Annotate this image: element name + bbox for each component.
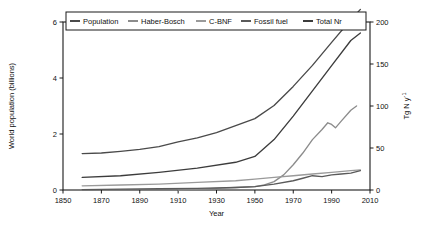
legend-label-haber-bosch: Haber-Bosch	[141, 17, 185, 26]
y-right-tick-label: 50	[376, 144, 384, 153]
legend-label-c-bnf: C-BNF	[209, 17, 232, 26]
x-tick-label: 2010	[362, 196, 379, 205]
legend-label-fossil-fuel: Fossil fuel	[254, 17, 288, 26]
legend-label-population: Population	[83, 17, 118, 26]
x-axis-ticks: 185018701890191019301950197019902010	[55, 190, 379, 205]
y-axis-left-label: World population (billions)	[7, 62, 16, 149]
y-right-tick-label: 100	[376, 102, 389, 111]
y-axis-left-ticks: 0246	[53, 18, 63, 195]
x-tick-label: 1870	[93, 196, 110, 205]
y-right-tick-label: 0	[376, 186, 380, 195]
y-axis-right-ticks: 050100150200	[370, 18, 389, 195]
population-nitrogen-line-chart: 185018701890191019301950197019902010 024…	[0, 0, 422, 242]
y-left-tick-label: 0	[53, 186, 57, 195]
y-right-tick-label: 150	[376, 60, 389, 69]
series-line-population	[82, 9, 360, 153]
y-left-tick-label: 2	[53, 130, 57, 139]
series-line-total-nr	[82, 33, 360, 177]
x-tick-label: 1990	[323, 196, 340, 205]
x-tick-label: 1950	[247, 196, 264, 205]
y-right-tick-label: 200	[376, 18, 389, 27]
x-tick-label: 1910	[170, 196, 187, 205]
y-left-tick-label: 6	[53, 18, 57, 27]
x-tick-label: 1930	[208, 196, 225, 205]
chart-legend: PopulationHaber-BoschC-BNFFossil fuelTot…	[66, 12, 366, 30]
series-line-c-bnf	[82, 170, 360, 186]
x-tick-label: 1850	[55, 196, 72, 205]
x-tick-label: 1970	[285, 196, 302, 205]
y-axis-right-label: Tg N y-1	[401, 93, 411, 120]
y-left-tick-label: 4	[53, 74, 57, 83]
series-lines	[82, 9, 360, 190]
y-axis-right-label-text: Tg N y	[402, 97, 411, 119]
figure-container: 185018701890191019301950197019902010 024…	[0, 0, 422, 242]
x-axis-label: Year	[209, 209, 225, 218]
x-tick-label: 1890	[131, 196, 148, 205]
y-axis-right-label-exponent: -1	[401, 93, 407, 98]
legend-label-total-nr: Total Nr	[316, 17, 342, 26]
